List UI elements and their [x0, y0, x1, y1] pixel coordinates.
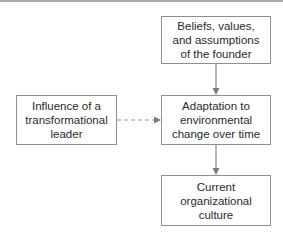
dashed-arrow-leader-to-adaptation	[117, 117, 161, 124]
arrow-founder-to-adaptation	[213, 64, 220, 95]
connector-arrows	[0, 0, 283, 237]
arrow-adaptation-to-culture	[213, 145, 220, 175]
